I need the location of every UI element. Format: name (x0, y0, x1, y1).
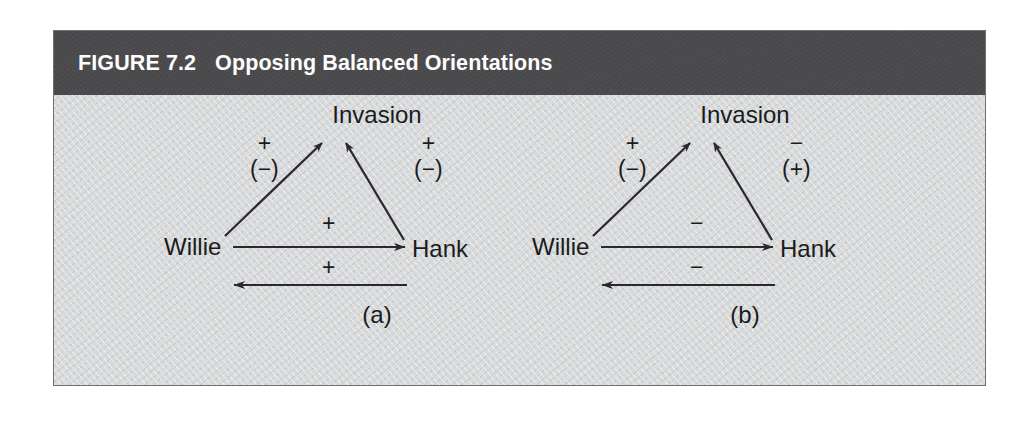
sign-left-diagonal: + (−) (618, 131, 647, 183)
figure-number-label: FIGURE 7.2 (78, 51, 196, 75)
sign-right-diagonal: − (+) (782, 131, 811, 183)
sign-left-diagonal: + (−) (250, 131, 279, 183)
node-label-hank: Hank (412, 237, 468, 261)
diagram-panel-b: Invasion Willie Hank + (−) − (+) − − (b) (530, 95, 960, 387)
node-label-willie: Willie (532, 235, 589, 259)
sign-right-diagonal-inner: (−) (414, 157, 443, 183)
sign-left-diagonal-outer: + (618, 131, 647, 157)
sign-base-backward: − (690, 255, 703, 281)
panel-caption-a: (a) (362, 303, 391, 327)
panel-a-arrows (162, 95, 592, 387)
node-label-willie: Willie (164, 235, 221, 259)
diagram-panel-a: Invasion Willie Hank + (−) + (−) + + (a) (162, 95, 592, 387)
figure-header-title: FIGURE 7.2Opposing Balanced Orientations (78, 51, 553, 76)
sign-right-diagonal-inner: (+) (782, 157, 811, 183)
sign-left-diagonal-outer: + (250, 131, 279, 157)
sign-right-diagonal: + (−) (414, 131, 443, 183)
node-label-hank: Hank (780, 237, 836, 261)
sign-base-forward: − (690, 211, 703, 237)
sign-left-diagonal-inner: (−) (250, 157, 279, 183)
figure-header-band: FIGURE 7.2Opposing Balanced Orientations (54, 31, 985, 95)
sign-right-diagonal-outer: + (414, 131, 443, 157)
panel-b-arrows (530, 95, 960, 387)
sign-left-diagonal-inner: (−) (618, 157, 647, 183)
figure-body: Invasion Willie Hank + (−) + (−) + + (a) (54, 95, 985, 385)
node-label-invasion: Invasion (332, 103, 421, 127)
sign-right-diagonal-outer: − (782, 131, 811, 157)
edge-hank-to-invasion (346, 143, 404, 240)
edge-hank-to-invasion (714, 143, 772, 240)
figure-title-text: Opposing Balanced Orientations (215, 51, 553, 75)
panel-caption-b: (b) (730, 303, 759, 327)
sign-base-backward: + (322, 255, 335, 281)
figure-box: FIGURE 7.2Opposing Balanced Orientations (53, 30, 986, 386)
node-label-invasion: Invasion (700, 103, 789, 127)
sign-base-forward: + (322, 211, 335, 237)
